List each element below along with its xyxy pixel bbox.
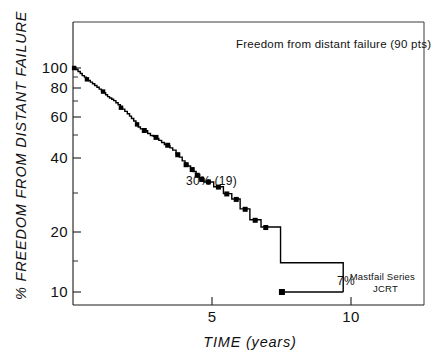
ytick-label-60: 60 (51, 108, 69, 125)
source-line-2: JCRT (373, 283, 398, 294)
source-line-1: Mastfail Series (350, 271, 415, 282)
censor-marker (165, 143, 170, 148)
xtick-label-5: 5 (208, 308, 217, 325)
chart-canvas: 100 80 60 40 20 10 5 10 % FREEDOM FROM D… (0, 0, 441, 358)
censor-marker (175, 152, 180, 157)
censor-marker (195, 173, 200, 178)
ytick-label-100: 100 (42, 59, 68, 76)
censor-marker (253, 218, 258, 223)
header-annotation: Freedom from distant failure (90 pts) (236, 38, 431, 50)
censor-marker (154, 135, 159, 140)
censor-marker (216, 185, 221, 190)
censor-marker (142, 128, 147, 133)
censor-marker (72, 66, 76, 70)
censor-marker (199, 177, 204, 182)
censor-marker (85, 77, 89, 81)
censor-marker (234, 197, 239, 202)
x-axis-title: TIME (years) (203, 334, 296, 350)
censor-marker (263, 225, 268, 230)
censor-marker (206, 179, 211, 184)
censor-marker (184, 162, 189, 167)
y-axis-title: % FREEDOM FROM DISTANT FAILURE (13, 11, 29, 300)
censor-marker (135, 122, 139, 126)
censor-marker (279, 289, 285, 295)
ytick-label-20: 20 (51, 223, 69, 240)
censor-marker (190, 167, 195, 172)
ytick-label-10: 10 (51, 283, 69, 300)
censor-marker (119, 105, 123, 109)
xtick-label-10: 10 (342, 308, 360, 325)
censor-marker (224, 191, 229, 196)
milestone-annotation: 30% (19) (186, 174, 237, 188)
survival-chart-figure: 100 80 60 40 20 10 5 10 % FREEDOM FROM D… (0, 0, 441, 358)
ytick-label-40: 40 (51, 149, 69, 166)
censor-marker (243, 207, 248, 212)
ytick-label-80: 80 (51, 79, 69, 96)
censor-marker (101, 89, 105, 93)
